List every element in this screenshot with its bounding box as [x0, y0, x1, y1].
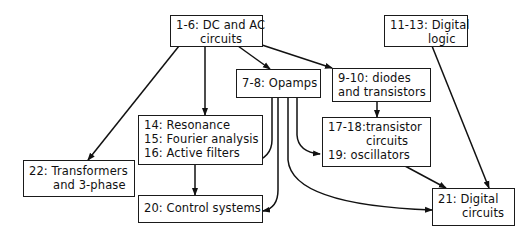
edge-digital-logic-to-digital-circuits: [432, 46, 489, 188]
node-label: 14: Resonance: [144, 118, 257, 132]
node-label: and 3-phase: [29, 178, 129, 192]
node-transistor-circuits-oscillators: 17-18:transistor circuits 19: oscillator…: [322, 117, 431, 167]
node-label: 21: Digital: [438, 192, 509, 206]
node-digital-logic: 11-13: Digital logic: [384, 15, 468, 47]
node-diodes-transistors: 9-10: diodes and transistors: [332, 68, 431, 102]
node-label: circuits: [438, 206, 509, 220]
node-label: 16: Active filters: [144, 146, 257, 160]
node-label: logic: [390, 32, 462, 46]
node-label: 7-8: Opamps: [242, 76, 315, 90]
edge-oscillators-to-digital-circuits: [405, 166, 446, 188]
node-label: circuits: [328, 134, 425, 148]
node-resonance-fourier-filters: 14: Resonance 15: Fourier analysis 16: A…: [138, 115, 263, 165]
node-label: 20: Control systems: [144, 201, 257, 215]
node-label: and transistors: [338, 85, 425, 99]
node-label: 22: Transformers: [29, 164, 129, 178]
node-opamps: 7-8: Opamps: [236, 69, 321, 98]
node-label: 11-13: Digital: [390, 18, 462, 32]
node-label: 9-10: diodes: [338, 71, 425, 85]
node-label: 15: Fourier analysis: [144, 132, 257, 146]
node-transformers: 22: Transformers and 3-phase: [23, 160, 135, 197]
node-label: circuits: [176, 32, 257, 46]
edge-opamps-to-control-systems: [263, 97, 278, 211]
node-label: 17-18:transistor: [328, 120, 425, 134]
node-dc-ac-circuits: 1-6: DC and AC circuits: [170, 15, 263, 47]
node-digital-circuits: 21: Digital circuits: [432, 188, 515, 226]
edge-dcac-to-diodes: [262, 45, 332, 68]
edge-opamps-to-oscillators: [297, 97, 320, 154]
node-control-systems: 20: Control systems: [138, 195, 263, 223]
node-label: 19: oscillators: [328, 148, 425, 162]
edge-dcac-to-opamps: [238, 46, 270, 69]
node-label: 1-6: DC and AC: [176, 18, 257, 32]
